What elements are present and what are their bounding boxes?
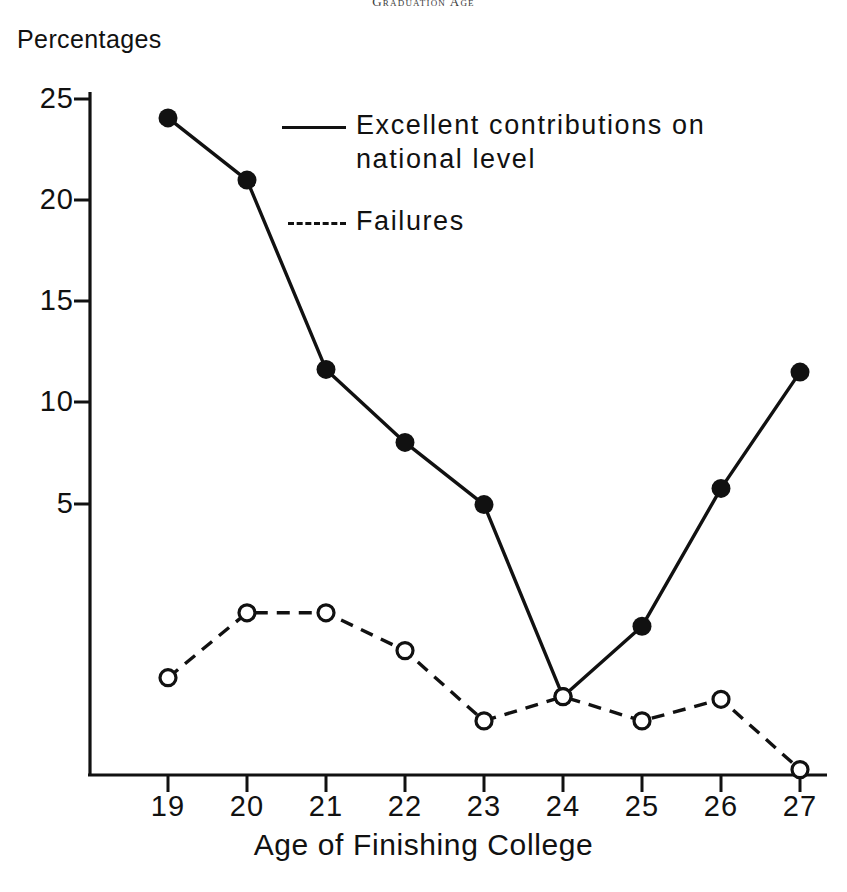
data-point — [396, 433, 415, 452]
series-excellent-contributions — [159, 108, 810, 706]
series-excellent-line — [168, 118, 800, 697]
series-failures-line — [168, 613, 800, 770]
y-ticks — [74, 99, 90, 504]
axes — [74, 92, 827, 792]
data-point — [476, 713, 492, 729]
series-failures — [160, 605, 808, 778]
data-point — [318, 605, 334, 621]
data-point — [160, 670, 176, 686]
series-failures-markers — [160, 605, 808, 778]
data-point — [397, 643, 413, 659]
data-point — [633, 617, 652, 636]
data-point — [239, 605, 255, 621]
data-point — [317, 360, 336, 379]
x-ticks — [168, 775, 800, 792]
figure-graduation-age: Graduation Age Percentages Age of Finish… — [0, 0, 847, 892]
data-point — [634, 713, 650, 729]
data-point — [238, 171, 257, 190]
data-point — [712, 479, 731, 498]
plot-area — [0, 0, 847, 892]
data-point — [792, 762, 808, 778]
data-point — [159, 108, 178, 127]
data-point — [713, 691, 729, 707]
data-point — [475, 495, 494, 514]
data-point — [791, 363, 810, 382]
data-point — [555, 689, 571, 705]
